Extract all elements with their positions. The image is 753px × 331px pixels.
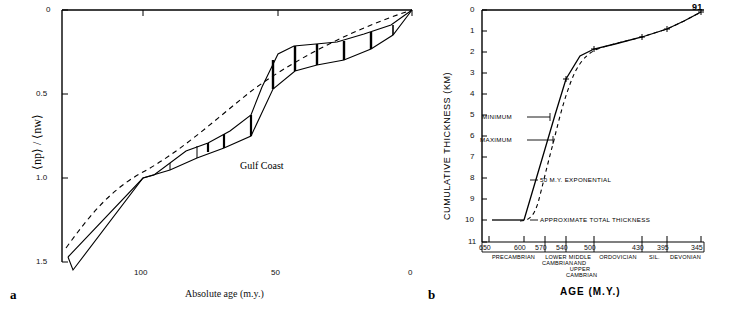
- x-ticklabel-b-3: 540: [556, 244, 568, 251]
- annotation-gulf-coast: Gulf Coast: [240, 160, 284, 171]
- annotation-exponential: 50 M.Y. EXPONENTIAL: [540, 176, 611, 183]
- x-ticklabel-b-7: 345: [691, 244, 703, 251]
- x-ticklabel-b-6: 395: [657, 244, 669, 251]
- panel-b-letter: b: [428, 287, 435, 303]
- panel-a-plot: [0, 0, 420, 300]
- x-axis-title-a: Absolute age (m.y.): [185, 288, 264, 299]
- y-axis-title-a: ⟨np⟩ / ⟨nw⟩: [30, 114, 45, 170]
- series-upper-a: [68, 10, 412, 270]
- annotation-minimum: MINIMUM: [482, 113, 512, 120]
- figure-root: 0 0.5 1.0 1.5 100 50 0 Absolute age (m.y…: [0, 0, 753, 331]
- data-markers-b: [563, 9, 704, 82]
- annotation-maximum: MAXIMUM: [480, 136, 512, 143]
- x-ticklabel-b-2: 570: [535, 244, 547, 251]
- y-ticklabel-b-10: 10: [465, 215, 474, 224]
- period-ordovician: ORDOVICIAN: [594, 254, 642, 260]
- x-ticklabel-b-1: 600: [514, 244, 526, 251]
- envelope-connectors-a: [170, 25, 393, 170]
- y-ticklabel-b-7: 7: [470, 152, 474, 161]
- y-ticklabel-b-8: 8: [470, 173, 474, 182]
- y-ticklabel-a-0: 0: [46, 5, 50, 14]
- series-exponential-b: [520, 12, 701, 221]
- y-ticklabel-b-2: 2: [470, 47, 474, 56]
- x-ticklabel-a-0: 100: [134, 268, 147, 277]
- x-ticklabel-b-0: 650: [479, 244, 491, 251]
- x-ticklabel-a-1: 50: [271, 268, 280, 277]
- y-ticklabel-a-2: 1.0: [36, 173, 47, 182]
- y-axis-title-b: CUMULATIVE THICKNESS (KM): [442, 72, 452, 220]
- period-devonian: DEVONIAN: [667, 254, 704, 260]
- annotation-91: 91: [692, 2, 703, 12]
- panel-a: 0 0.5 1.0 1.5 100 50 0 Absolute age (m.y…: [0, 0, 420, 331]
- series-observed-b: [524, 12, 701, 220]
- x-ticklabel-a-2: 0: [408, 268, 412, 277]
- y-ticks-b: [482, 10, 487, 242]
- annotation-total-thickness: APPROXIMATE TOTAL THICKNESS: [540, 216, 650, 223]
- y-ticklabel-b-5: 5: [470, 110, 474, 119]
- series-lower-a: [68, 10, 412, 257]
- y-ticklabel-b-0: 0: [470, 5, 474, 14]
- x-ticklabel-b-4: 500: [584, 244, 596, 251]
- period-middle-upper-cambrian: MIDDLEANDUPPERCAMBRIAN: [566, 254, 594, 278]
- y-ticklabel-b-1: 1: [470, 26, 474, 35]
- y-ticklabel-b-3: 3: [470, 68, 474, 77]
- y-ticks-a: [62, 10, 68, 262]
- period-silurian: SIL.: [642, 254, 667, 260]
- panel-a-letter: a: [10, 287, 17, 303]
- y-ticklabel-a-1: 0.5: [36, 89, 47, 98]
- x-ticks-a: [143, 10, 412, 16]
- y-ticklabel-b-11: 11: [468, 237, 476, 246]
- x-ticklabel-b-5: 430: [632, 244, 644, 251]
- y-ticklabel-b-4: 4: [470, 89, 474, 98]
- panel-b: 0 1 2 3 4 5 6 7 8 9 10 11 650 600 570 54…: [420, 0, 753, 331]
- x-axis-title-b: AGE (M.Y.): [560, 286, 621, 297]
- y-ticklabel-b-6: 6: [470, 131, 474, 140]
- series-exponential-a: [66, 10, 412, 248]
- x-ticks-b: [489, 236, 701, 242]
- y-ticklabel-b-9: 9: [470, 194, 474, 203]
- y-ticklabel-a-3: 1.5: [36, 257, 47, 266]
- period-precambrian: PRECAMBRIAN: [482, 254, 545, 260]
